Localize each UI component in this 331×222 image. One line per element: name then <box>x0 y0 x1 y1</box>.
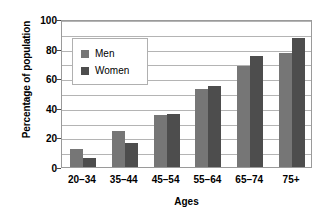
bar-group <box>154 21 180 167</box>
bar-women <box>125 143 138 167</box>
y-axis-tick-label: 60 <box>17 74 57 85</box>
bar-women <box>167 114 180 167</box>
bar-women <box>292 38 305 167</box>
legend-label-women: Women <box>95 65 129 76</box>
legend-item-men: Men <box>81 45 147 62</box>
x-axis-title: Ages <box>61 196 312 207</box>
y-axis-tick-label: 40 <box>17 103 57 114</box>
bar-men <box>195 89 208 167</box>
bar-women <box>208 86 221 167</box>
y-axis-tick-label: 100 <box>17 15 57 26</box>
bar-group <box>279 21 305 167</box>
legend-swatch-women-icon <box>81 67 89 75</box>
bar-women <box>83 158 96 167</box>
y-axis-tick-label: 20 <box>17 133 57 144</box>
y-axis-tick-label: 0 <box>17 163 57 174</box>
y-axis-tick-mark <box>56 168 61 169</box>
bar-men <box>112 131 125 167</box>
bar-men <box>154 115 167 167</box>
y-axis-tick-label: 80 <box>17 44 57 55</box>
bar-men <box>279 53 292 167</box>
x-axis-tick-label: 75+ <box>264 174 318 185</box>
legend-item-women: Women <box>81 62 147 79</box>
bar-group <box>195 21 221 167</box>
legend: Men Women <box>72 38 148 85</box>
legend-swatch-men-icon <box>81 50 89 58</box>
bar-men <box>237 66 250 167</box>
legend-label-men: Men <box>95 48 114 59</box>
bar-men <box>70 149 83 167</box>
bar-women <box>250 56 263 167</box>
bar-chart-figure: Percentage of population 020406080100 Me… <box>0 0 331 222</box>
bar-group <box>237 21 263 167</box>
